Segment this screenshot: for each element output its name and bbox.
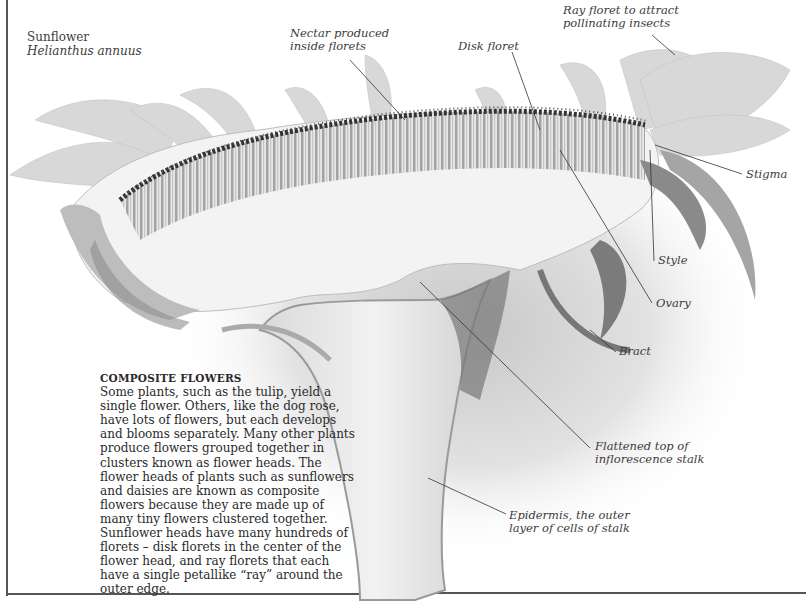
label-bract: Bract <box>619 345 651 358</box>
label-ray-floret: Ray floret to attract pollinating insect… <box>563 4 679 30</box>
label-epidermis: Epidermis, the outer layer of cells of s… <box>509 509 630 535</box>
label-line: layer of cells of stalk <box>509 522 630 535</box>
label-line: Stigma <box>746 168 787 181</box>
label-style: Style <box>658 254 687 267</box>
label-line: Disk floret <box>458 40 519 53</box>
composite-flowers-text: COMPOSITE FLOWERS Some plants, such as t… <box>100 371 360 597</box>
label-ovary: Ovary <box>656 297 691 310</box>
label-line: Bract <box>619 345 651 358</box>
label-flattened-top: Flattened top of inflorescence stalk <box>595 440 704 466</box>
label-line: pollinating insects <box>563 17 679 30</box>
common-name: Sunflower <box>27 30 89 44</box>
section-body: Some plants, such as the tulip, yield a … <box>100 385 355 596</box>
label-line: inside florets <box>290 40 389 53</box>
label-line: inflorescence stalk <box>595 453 704 466</box>
label-line: Style <box>658 254 687 267</box>
label-stigma: Stigma <box>746 168 787 181</box>
section-heading: COMPOSITE FLOWERS <box>100 371 360 385</box>
label-line: Ovary <box>656 297 691 310</box>
label-nectar: Nectar produced inside florets <box>290 27 389 53</box>
specimen-title: Sunflower Helianthus annuus <box>27 30 142 58</box>
label-disk-floret: Disk floret <box>458 40 519 53</box>
scientific-name: Helianthus annuus <box>27 44 142 58</box>
